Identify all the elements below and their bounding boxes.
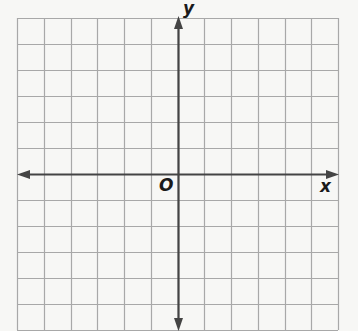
origin-label: O bbox=[159, 175, 173, 195]
y-axis-label: y bbox=[183, 0, 194, 18]
grid-svg bbox=[0, 0, 358, 331]
arrow-left-icon bbox=[17, 170, 30, 179]
x-axis-label: x bbox=[320, 176, 331, 196]
arrow-down-icon bbox=[174, 318, 183, 331]
axes bbox=[17, 16, 339, 331]
coordinate-plane: y x O bbox=[0, 0, 358, 331]
